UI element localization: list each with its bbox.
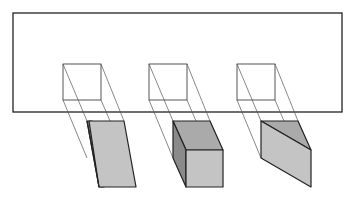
projection-group-3 (237, 64, 311, 187)
solid-slanted-prism (87, 121, 136, 187)
picture-plane (13, 13, 342, 112)
projection-diagram (0, 0, 346, 200)
solid-cube (173, 121, 223, 187)
projection-group-1 (63, 64, 136, 187)
projected-square-3 (237, 64, 275, 100)
cube-front-face (186, 150, 223, 187)
projected-square-2 (149, 64, 187, 100)
projection-group-2 (149, 64, 223, 187)
prism-front-face (89, 121, 136, 187)
diagram-canvas (0, 0, 346, 200)
projected-square-1 (63, 64, 101, 100)
solid-wedge (261, 121, 311, 187)
